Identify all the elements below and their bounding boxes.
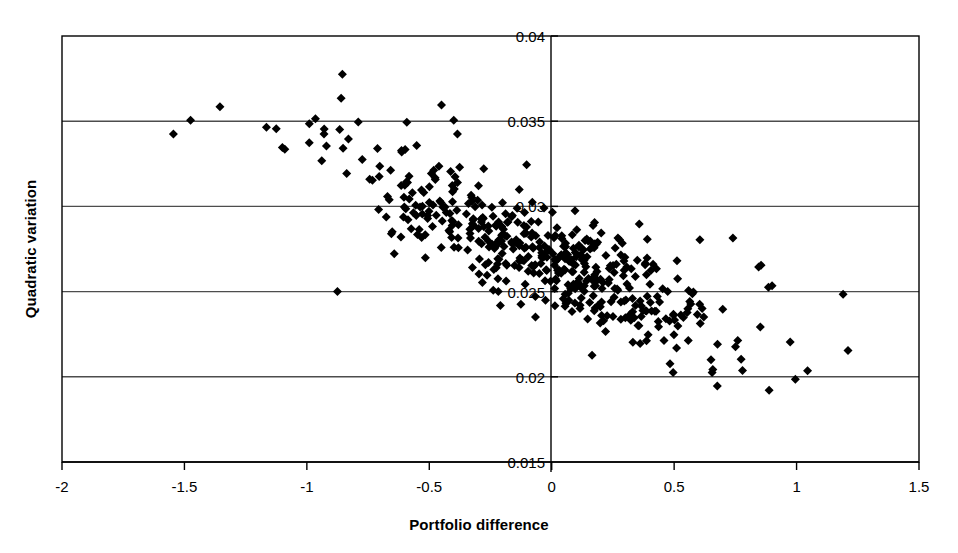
scatter-point <box>337 94 346 103</box>
scatter-point <box>634 321 643 330</box>
scatter-point <box>516 300 525 309</box>
scatter-point <box>186 116 195 125</box>
scatter-point <box>552 223 561 232</box>
scatter-point <box>644 330 653 339</box>
scatter-point <box>437 243 446 252</box>
scatter-point <box>522 160 531 169</box>
y-axis-title: Quadratic variation <box>22 36 44 462</box>
scatter-point <box>611 244 620 253</box>
scatter-point <box>333 287 342 296</box>
scatter-point <box>713 340 722 349</box>
scatter-point <box>489 212 498 221</box>
scatter-point <box>843 346 852 355</box>
y-tick-label: 0.015 <box>507 454 545 471</box>
scatter-point <box>432 211 441 220</box>
x-tick-label: 0 <box>548 478 556 495</box>
scatter-point <box>531 313 540 322</box>
scatter-point <box>342 169 351 178</box>
scatter-point <box>354 118 363 127</box>
scatter-point <box>803 366 812 375</box>
scatter-point <box>402 118 411 127</box>
scatter-point <box>669 368 678 377</box>
scatter-point <box>643 235 652 244</box>
scatter-point <box>542 266 551 275</box>
scatter-point <box>619 271 628 280</box>
scatter-point <box>654 322 663 331</box>
scatter-point <box>633 256 642 265</box>
scatter-point <box>344 134 353 143</box>
scatter-point <box>412 141 421 150</box>
y-tick-label: 0.025 <box>507 284 545 301</box>
scatter-point <box>718 305 727 314</box>
scatter-point <box>665 359 674 368</box>
scatter-point <box>695 235 704 244</box>
y-tick-label: 0.035 <box>507 113 545 130</box>
scatter-point <box>438 216 447 225</box>
scatter-point <box>669 330 678 339</box>
scatter-point <box>474 181 483 190</box>
scatter-point <box>738 366 747 375</box>
scatter-point <box>335 125 344 134</box>
scatter-point <box>713 381 722 390</box>
scatter-point <box>645 280 654 289</box>
scatter-point <box>390 249 399 258</box>
scatter-point <box>358 155 367 164</box>
scatter-point <box>493 274 502 283</box>
y-tick-label: 0.04 <box>516 28 545 45</box>
scatter-point <box>496 301 505 310</box>
y-tick-label: 0.03 <box>516 198 545 215</box>
scatter-point <box>463 246 472 255</box>
x-axis <box>62 462 919 470</box>
scatter-point <box>305 138 314 147</box>
scatter-point <box>375 162 384 171</box>
scatter-point <box>588 351 597 360</box>
scatter-point <box>786 338 795 347</box>
scatter-point <box>608 312 617 321</box>
scatter-point <box>449 116 458 125</box>
x-tick-label: 0.5 <box>664 478 685 495</box>
scatter-point <box>601 327 610 336</box>
scatter-point <box>631 272 640 281</box>
scatter-point <box>628 338 637 347</box>
scatter-point <box>567 307 576 316</box>
scatter-point <box>382 213 391 222</box>
scatter-point <box>455 163 464 172</box>
scatter-point <box>597 229 606 238</box>
scatter-point <box>319 129 328 138</box>
x-tick-label: 1 <box>792 478 800 495</box>
scatter-point <box>262 123 271 132</box>
scatter-point <box>706 355 715 364</box>
scatter-point <box>583 315 592 324</box>
scatter-point <box>737 355 746 364</box>
scatter-point <box>272 124 281 133</box>
x-tick-label: -1 <box>300 478 313 495</box>
x-tick-label: -2 <box>55 478 68 495</box>
scatter-point <box>479 164 488 173</box>
scatter-point <box>515 185 524 194</box>
scatter-point <box>478 278 487 287</box>
scatter-point <box>475 255 484 264</box>
scatter-point <box>673 256 682 265</box>
scatter-point <box>728 233 737 242</box>
scatter-point <box>660 336 669 345</box>
scatter-point <box>215 102 224 111</box>
scatter-point <box>475 269 484 278</box>
scatter-point <box>386 166 395 175</box>
x-tick-label: -0.5 <box>416 478 442 495</box>
scatter-point <box>448 197 457 206</box>
scatter-point <box>672 343 681 352</box>
scatter-point <box>765 386 774 395</box>
scatter-point <box>635 220 644 229</box>
scatter-point <box>425 182 434 191</box>
scatter-point <box>483 271 492 280</box>
scatter-point <box>407 224 416 233</box>
scatter-point <box>373 144 382 153</box>
x-tick-label: 1.5 <box>909 478 930 495</box>
scatter-point <box>468 263 477 272</box>
x-tick-label: -1.5 <box>171 478 197 495</box>
scatter-plot-figure: -2-1.5-1-0.500.511.5 0.0150.020.0250.030… <box>0 0 958 553</box>
scatter-point <box>548 208 557 217</box>
scatter-point <box>322 141 331 150</box>
scatter-point <box>338 70 347 79</box>
scatter-point <box>487 203 496 212</box>
